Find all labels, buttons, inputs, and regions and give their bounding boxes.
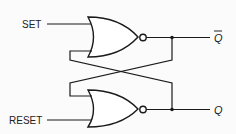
nor-gate-bottom — [88, 90, 138, 127]
q-bar-label: Q — [214, 32, 223, 44]
q-label: Q — [214, 104, 223, 116]
reset-label: RESET — [9, 115, 42, 126]
inversion-bubble-bottom — [140, 106, 146, 112]
set-label: SET — [22, 19, 41, 30]
sr-latch-diagram: SET RESET Q Q — [0, 0, 236, 134]
circuit-svg: SET RESET Q Q — [0, 0, 236, 134]
nor-gate-top — [88, 17, 138, 57]
inversion-bubble-top — [140, 34, 146, 40]
